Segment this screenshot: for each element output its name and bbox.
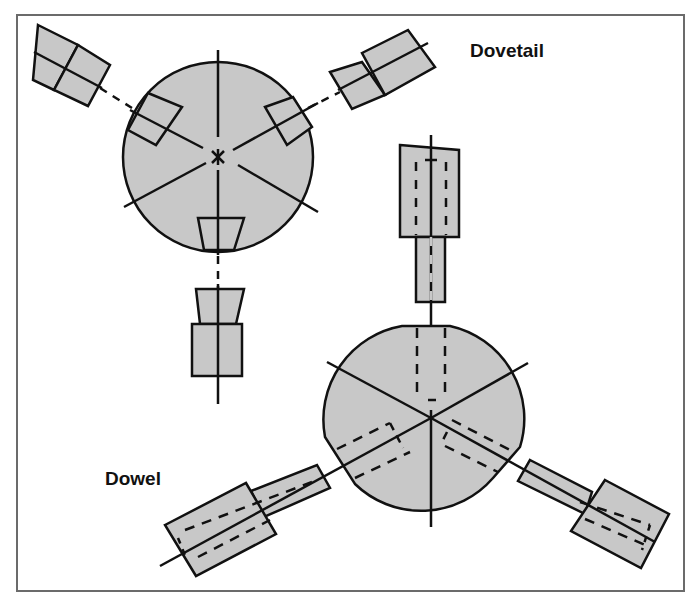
dowel-top-sleeve (400, 145, 459, 302)
dovetail-label: Dovetail (470, 40, 544, 62)
dowel-label: Dowel (105, 468, 161, 490)
dowel-lower-right-part (518, 460, 669, 568)
dowel-lower-left-part (165, 465, 330, 576)
dowel-hub (323, 326, 524, 511)
dovetail-tenon-bottom (192, 284, 244, 404)
dovetail-tenon-top-left (33, 25, 110, 106)
dovetail-tenon-top-right (330, 30, 435, 109)
joint-diagram (0, 0, 693, 606)
